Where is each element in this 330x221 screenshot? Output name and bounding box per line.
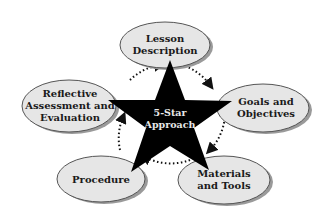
center-label: Approach — [144, 119, 196, 130]
node-label: Evaluation — [40, 112, 101, 123]
node-lesson-description: Lesson Description — [120, 22, 213, 70]
node-label: Assessment and — [24, 100, 115, 111]
node-label: Description — [132, 45, 198, 56]
node-label: Goals and — [238, 96, 293, 107]
center-label: 5-Star — [154, 107, 188, 118]
node-label: Reflective — [43, 88, 98, 99]
node-label: and Tools — [197, 180, 251, 191]
node-reflective-assessment: Reflective Assessment and Evaluation — [22, 80, 119, 134]
node-goals-objectives: Goals and Objectives — [217, 84, 312, 134]
node-label: Materials — [197, 168, 251, 179]
node-label: Procedure — [72, 174, 130, 185]
node-label: Lesson — [146, 33, 185, 44]
center-star: 5-Star Approach — [108, 60, 232, 172]
node-label: Objectives — [237, 108, 295, 119]
node-materials-tools: Materials and Tools — [178, 156, 273, 206]
five-star-diagram: Lesson Description Goals and Objectives … — [0, 0, 330, 221]
